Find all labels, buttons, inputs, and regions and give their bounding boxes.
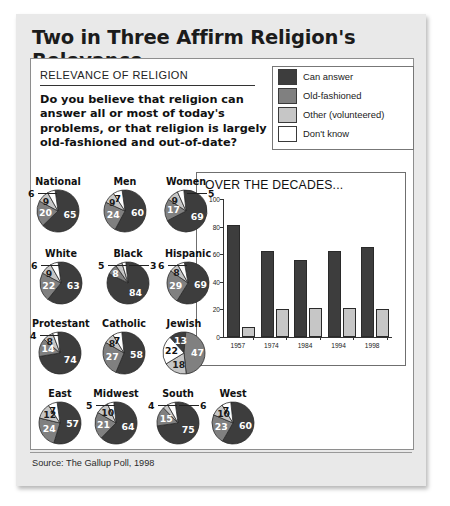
bar-chart-plot: 02040608010019571974198419941998 (223, 199, 391, 337)
bar-can-answer-1984 (294, 260, 307, 337)
legend-label: Can answer (303, 71, 353, 82)
pie-title: Women (158, 176, 214, 187)
x-axis (223, 337, 392, 338)
pie-chart-hispanic: Hispanic692986 (160, 248, 216, 308)
pie-slice-value: 75 (182, 424, 195, 435)
legend-swatch (278, 107, 297, 123)
pie-slice-value: 6 (31, 260, 37, 271)
pie-slice-value: 84 (129, 287, 142, 298)
legend-item: Other (volunteered) (278, 105, 413, 124)
pie-title: Men (97, 176, 153, 187)
pie-title: National (30, 176, 86, 187)
legend: Can answerOld-fashionedOther (volunteere… (272, 66, 414, 150)
pie-slice-value: 4 (148, 400, 154, 411)
pie-slice-value: 8 (47, 336, 53, 347)
pie-chart-midwest: Midwest6421105 (88, 388, 144, 448)
pie-slice-value: 6 (158, 260, 164, 271)
x-tick-label: 1984 (298, 342, 313, 349)
pie-slice-value: 27 (106, 351, 119, 362)
pie-slice-value: 8 (173, 267, 179, 278)
pie-slice-value: 15 (160, 413, 173, 424)
y-axis (223, 199, 224, 338)
pie-graphic (105, 260, 151, 306)
pie-slice-value: 20 (39, 207, 52, 218)
pie-slice-value: 7 (114, 193, 120, 204)
pie-slice-value: 47 (191, 347, 204, 358)
x-tick-mark (253, 337, 254, 340)
pie-slice-value: 4 (30, 330, 36, 341)
label-leader-line (108, 265, 127, 266)
pie-title: White (33, 248, 89, 259)
pie-slice-value: 58 (130, 349, 143, 360)
pie-slice-value: 5 (208, 188, 214, 199)
pie-slice-value: 21 (97, 419, 110, 430)
x-tick-label: 1994 (331, 342, 346, 349)
section-divider (40, 85, 255, 86)
pie-slice-value: 7 (114, 335, 120, 346)
pie-slice-value: 64 (122, 421, 135, 432)
pie-slice-value: 9 (46, 268, 52, 279)
legend-label: Other (volunteered) (303, 109, 384, 120)
pie-slice-value: 22 (165, 345, 178, 356)
pie-chart-jewish: Jewish13471822 (156, 318, 212, 378)
pie-slice-value: 5 (86, 400, 92, 411)
bar-old-fashioned-1974 (276, 309, 289, 337)
x-tick-mark (353, 337, 354, 340)
pie-slice-value: 10 (101, 407, 114, 418)
pie-slice-value: 6 (28, 188, 34, 199)
y-tick-mark (220, 337, 223, 338)
pie-chart-black: Black84853 (100, 248, 156, 308)
y-tick-mark (220, 199, 223, 200)
label-leader-line (40, 335, 59, 336)
pie-title: Hispanic (160, 248, 216, 259)
pie-slice-value: 65 (64, 209, 77, 220)
bar-chart-title: OVER THE DECADES... (205, 178, 343, 192)
label-leader-line (187, 193, 207, 194)
label-leader-line (179, 405, 199, 406)
pie-slice-value: 69 (194, 279, 207, 290)
pie-title: Midwest (88, 388, 144, 399)
pie-slice-value: 29 (169, 280, 182, 291)
label-leader-line (158, 405, 177, 406)
pie-slice-value: 24 (43, 423, 56, 434)
pie-chart-east: East5724127 (32, 388, 88, 448)
bar-old-fashioned-1994 (343, 308, 356, 337)
pie-chart-men: Men602497 (97, 176, 153, 236)
infographic-page: Two in Three Affirm Religion's Relevance… (0, 0, 450, 506)
legend-swatch (278, 126, 297, 142)
footer-divider (30, 452, 412, 453)
pie-slice-value: 74 (64, 354, 77, 365)
pie-chart-west: West6023107 (205, 388, 261, 448)
label-leader-line (129, 265, 149, 266)
pie-slice-value: 7 (49, 405, 55, 416)
bar-can-answer-1974 (261, 251, 274, 337)
x-tick-label: 1998 (365, 342, 380, 349)
pie-slice-value: 5 (98, 260, 104, 271)
pie-slice-value: 7 (223, 405, 229, 416)
pie-slice-value: 3 (150, 260, 156, 271)
pie-chart-protestant: Protestant741484 (32, 318, 88, 378)
pie-title: East (32, 388, 88, 399)
pie-slice-value: 23 (215, 421, 228, 432)
x-tick-mark (387, 337, 388, 340)
bar-old-fashioned-1984 (309, 308, 322, 337)
legend-item: Old-fashioned (278, 86, 413, 105)
x-tick-mark (286, 337, 287, 340)
pie-chart-white: White632296 (33, 248, 89, 308)
x-tick-label: 1957 (230, 342, 245, 349)
section-label: RELEVANCE OF RELIGION (40, 69, 188, 81)
x-tick-mark (320, 337, 321, 340)
bar-chart-panel: OVER THE DECADES... 02040608010019571974… (196, 172, 406, 366)
pie-slice-value: 60 (239, 420, 252, 431)
pie-slice-value: 24 (107, 209, 120, 220)
legend-label: Don't know (303, 128, 349, 139)
y-tick-mark (220, 309, 223, 310)
pie-chart-catholic: Catholic582787 (96, 318, 152, 378)
legend-swatch (278, 88, 297, 104)
pie-slice-value: 18 (172, 359, 185, 370)
label-leader-line (168, 265, 187, 266)
bar-can-answer-1998 (361, 247, 374, 337)
pie-chart-south: South751546 (150, 388, 206, 448)
y-tick-mark (220, 254, 223, 255)
bar-can-answer-1957 (227, 225, 240, 337)
